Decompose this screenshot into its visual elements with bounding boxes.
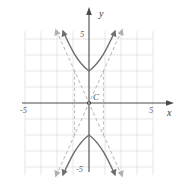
center-label: C: [93, 92, 100, 102]
hyperbola-graph-figure: y x -5 5 5 -5 C: [0, 0, 181, 178]
y-tick-label-positive-five: 5: [80, 29, 84, 39]
graph-canvas: y x -5 5 5 -5 C: [0, 0, 181, 178]
y-axis-label: y: [98, 8, 104, 19]
asymptote-arrow-upper-right: [118, 28, 124, 36]
y-axis-arrow: [86, 7, 92, 15]
x-tick-label-positive-five: 5: [149, 105, 153, 115]
asymptote-arrow-lower-left: [54, 170, 60, 178]
y-tick-label-negative-five: -5: [76, 164, 83, 174]
asymptote-arrow-lower-right: [118, 170, 124, 178]
x-tick-label-negative-five: -5: [20, 105, 27, 115]
x-axis-arrow: [166, 100, 174, 106]
asymptote-arrow-upper-left: [54, 28, 60, 36]
x-axis-label: x: [166, 107, 172, 118]
